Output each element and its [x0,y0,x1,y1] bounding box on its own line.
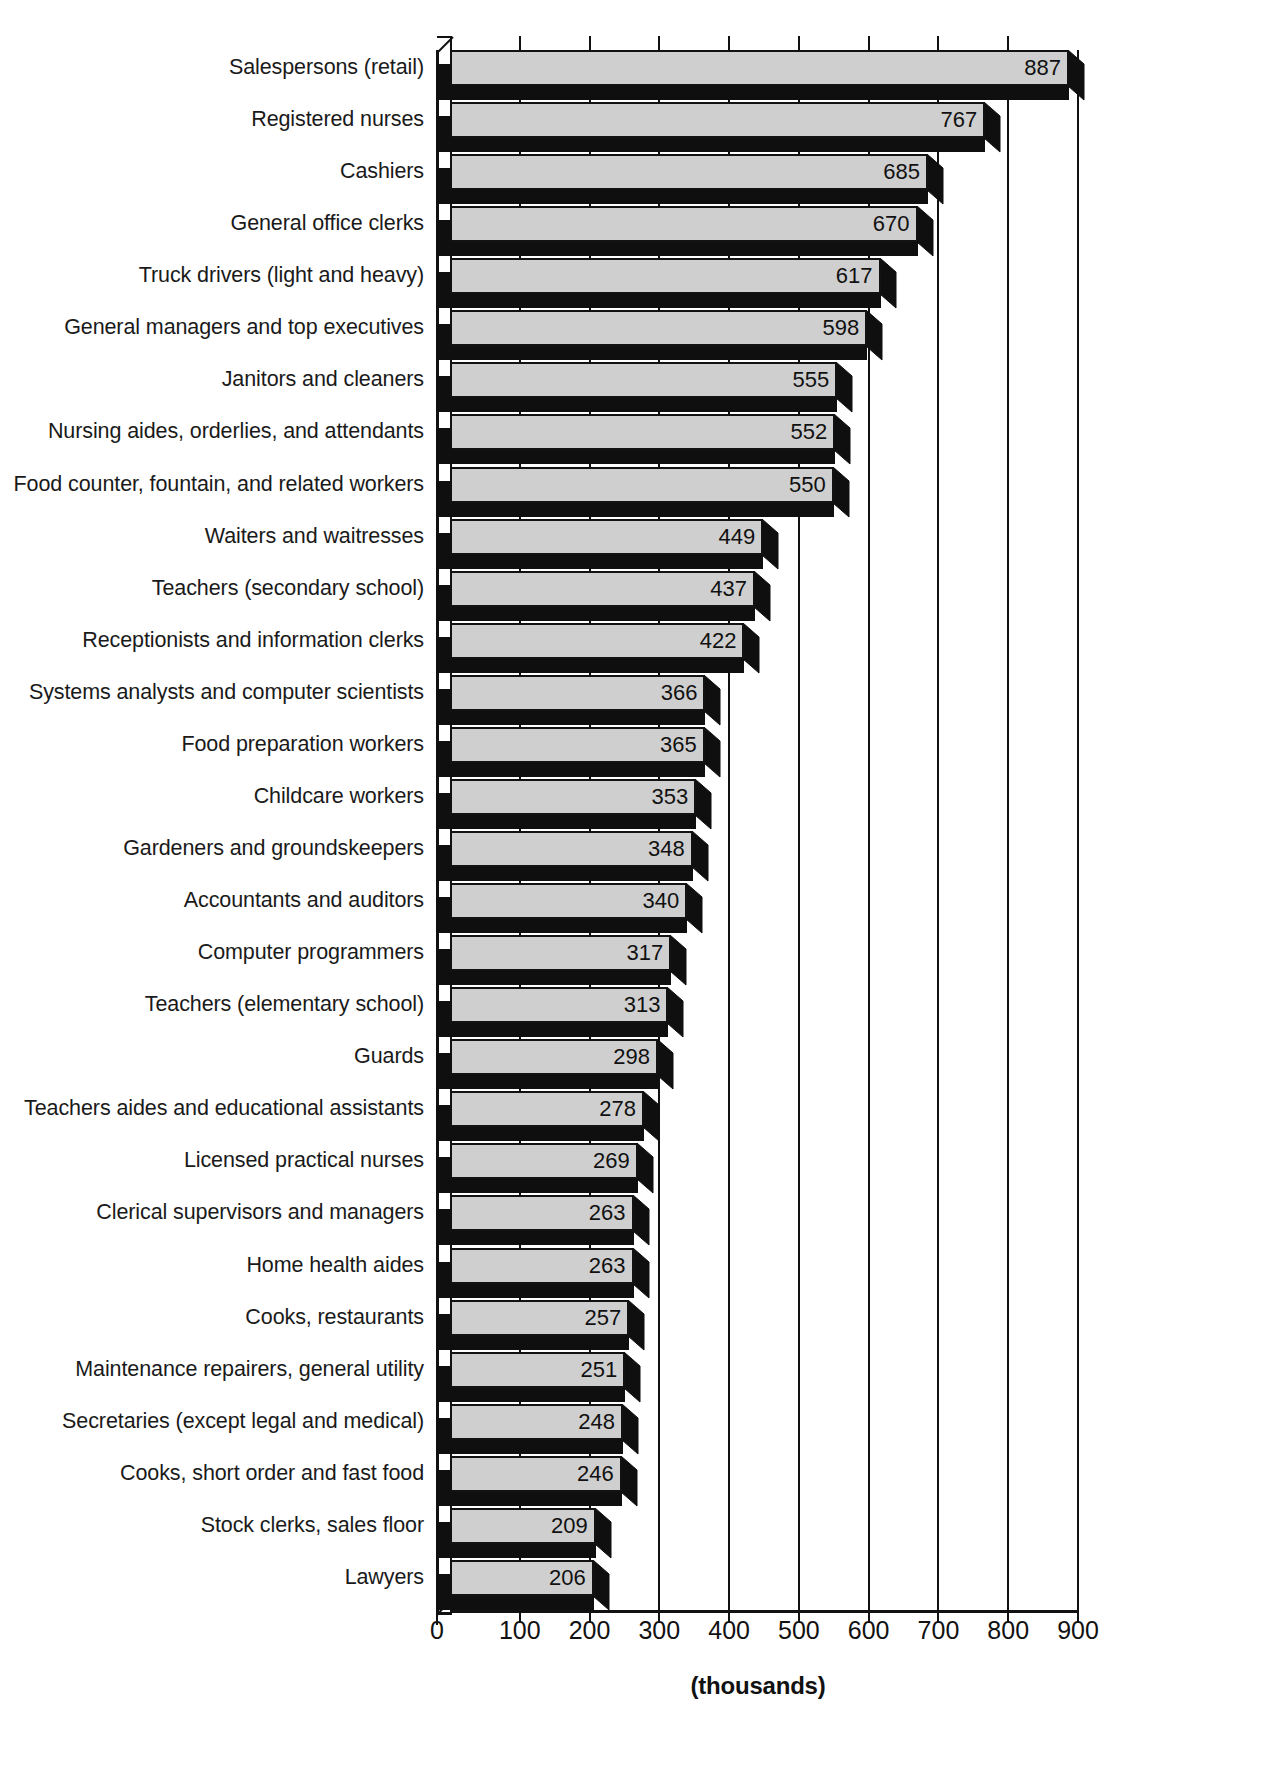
category-label: Licensed practical nurses [184,1150,424,1172]
bar-value-label: 422 [450,630,736,652]
bar-end-cap [633,1195,650,1248]
bar-group: 598 [450,310,885,364]
bar-end-cap [657,1039,674,1092]
bar-value-label: 437 [450,578,747,600]
bar-group: 353 [450,779,714,833]
x-tick-label: 300 [638,1618,680,1643]
bar-value-label: 246 [450,1463,614,1485]
bar-end-cap [628,1300,645,1353]
bar-value-label: 269 [450,1150,630,1172]
bar-value-label: 685 [450,161,920,183]
bar-value-label: 248 [450,1411,615,1433]
x-tick-label: 100 [499,1618,541,1643]
category-label: Stock clerks, sales floor [201,1515,424,1537]
gridline [1007,36,1009,1612]
bar-value-label: 767 [450,109,977,131]
category-label: Cashiers [340,161,424,183]
category-label: Janitors and cleaners [222,369,424,391]
bar-group: 317 [450,935,689,989]
bar-value-label: 552 [450,421,827,443]
category-label: Home health aides [246,1255,424,1277]
bar-group: 550 [450,467,852,521]
bar-group: 670 [450,206,936,260]
bar-end-cap [643,1091,660,1144]
x-tick-label: 800 [987,1618,1029,1643]
bar-group: 685 [450,154,946,208]
bar-group: 366 [450,675,723,729]
category-label: Teachers aides and educational assistant… [24,1098,424,1120]
bar-end-cap [866,310,883,363]
bar-end-cap [762,519,779,572]
bar-group: 206 [450,1560,612,1614]
category-label: Maintenance repairers, general utility [75,1359,424,1381]
bar-group: 257 [450,1300,647,1354]
category-label: Teachers (secondary school) [152,578,424,600]
bar-end-cap [667,987,684,1040]
bar-end-cap [633,1248,650,1301]
bar-end-cap [670,935,687,988]
bar-end-cap [692,831,709,884]
bar-group: 617 [450,258,899,312]
category-label: Food counter, fountain, and related work… [14,474,424,496]
bar-group: 449 [450,519,781,573]
bar-value-label: 257 [450,1307,621,1329]
bar-group: 555 [450,362,855,416]
category-label: General managers and top executives [64,317,424,339]
bar-value-label: 298 [450,1046,650,1068]
x-tick-labels: 0100200300400500600700800900 [436,1618,1136,1658]
bar-end-cap [917,206,934,259]
category-label: Cooks, short order and fast food [120,1463,424,1485]
bar-end-cap [834,414,851,467]
bar-end-cap [833,467,850,520]
category-label: Clerical supervisors and managers [96,1202,424,1224]
bar-value-label: 348 [450,838,685,860]
bar-value-label: 251 [450,1359,617,1381]
bar-end-cap [624,1352,641,1405]
category-label: Salespersons (retail) [229,57,424,79]
bar-group: 278 [450,1091,662,1145]
gridline [937,36,939,1612]
bar-group: 348 [450,831,711,885]
bar-group: 767 [450,102,1003,156]
bar-group: 887 [450,50,1087,104]
bar-end-cap [595,1508,612,1561]
bar-end-cap [593,1560,610,1613]
category-label: Cooks, restaurants [245,1307,424,1329]
bar-value-label: 550 [450,474,826,496]
category-label: Childcare workers [254,786,424,808]
bar-value-label: 598 [450,317,859,339]
category-label: Food preparation workers [181,734,424,756]
x-tick-label: 900 [1057,1618,1099,1643]
bar-group: 251 [450,1352,643,1406]
bar-end-cap [1068,50,1085,103]
category-label: Waiters and waitresses [205,526,424,548]
bar-group: 248 [450,1404,641,1458]
bar-group: 269 [450,1143,656,1197]
bar-value-label: 887 [450,57,1061,79]
bar-end-cap [754,571,771,624]
bar-group: 422 [450,623,762,677]
bar-end-cap [836,362,853,415]
x-tick-label: 200 [569,1618,611,1643]
bar-group: 263 [450,1248,652,1302]
bar-value-label: 317 [450,942,663,964]
x-tick-label: 0 [430,1618,444,1643]
category-label: Systems analysts and computer scientists [29,682,424,704]
bar-value-label: 449 [450,526,755,548]
bar-group: 365 [450,727,723,781]
bar-value-label: 263 [450,1255,626,1277]
category-label: Gardeners and groundskeepers [123,838,424,860]
category-label: General office clerks [231,213,424,235]
x-tick-label: 500 [778,1618,820,1643]
bar-value-label: 209 [450,1515,588,1537]
bar-chart: Salespersons (retail)Registered nursesCa… [0,0,1270,1771]
bar-end-cap [880,258,897,311]
x-tick-label: 400 [708,1618,750,1643]
bar-end-cap [621,1456,638,1509]
bar-value-label: 340 [450,890,679,912]
bar-end-cap [695,779,712,832]
bar-group: 340 [450,883,705,937]
bar-group: 552 [450,414,853,468]
bar-value-label: 670 [450,213,910,235]
x-tick-label: 700 [918,1618,960,1643]
